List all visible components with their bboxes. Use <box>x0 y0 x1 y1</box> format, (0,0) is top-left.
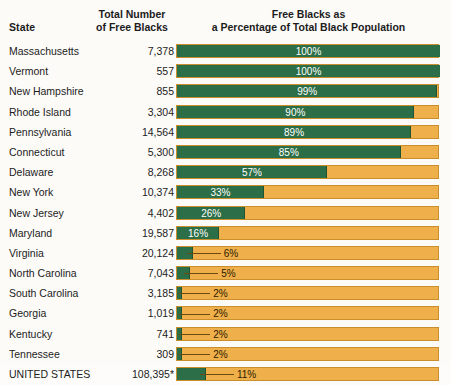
bar-track: 33% <box>176 185 439 199</box>
total-free-blacks-value: 741 <box>88 328 174 340</box>
state-name: Virginia <box>9 247 44 259</box>
state-name: Tennessee <box>9 348 60 360</box>
table-row: Virginia20,1246% <box>0 244 451 264</box>
leader-line <box>179 334 210 335</box>
state-name: North Carolina <box>9 267 77 279</box>
table-row: Vermont557100% <box>0 62 451 82</box>
column-header-pct-line2: a Percentage of Total Black Population <box>177 21 440 34</box>
bar-track: 11% <box>176 367 439 381</box>
table-row: Delaware8,26857% <box>0 163 451 183</box>
bar-fill-free <box>177 106 414 118</box>
total-free-blacks-value: 3,304 <box>88 106 174 118</box>
bar-fill-free <box>177 166 327 178</box>
table-row: New Hampshire85599% <box>0 82 451 102</box>
total-free-blacks-value: 10,374 <box>88 186 174 198</box>
bar-track: 85% <box>176 145 439 159</box>
bar-fill-free <box>177 186 264 198</box>
bar-track: 100% <box>176 64 439 78</box>
state-name: Rhode Island <box>9 106 71 118</box>
table-row: Georgia1,0192% <box>0 304 451 324</box>
state-name: South Carolina <box>9 287 78 299</box>
bar-track: 2% <box>176 347 439 361</box>
total-free-blacks-value: 3,185 <box>88 287 174 299</box>
table-row: New Jersey4,40226% <box>0 204 451 224</box>
table-row: UNITED STATES108,395*11% <box>0 365 451 385</box>
table-row: Tennessee3092% <box>0 345 451 365</box>
leader-line <box>200 374 234 375</box>
state-name: Maryland <box>9 227 52 239</box>
column-header-total-free-blacks: Total Number of Free Blacks <box>90 8 174 33</box>
total-free-blacks-value: 4,402 <box>88 207 174 219</box>
bar-track: 100% <box>176 44 439 58</box>
bar-track: 90% <box>176 105 439 119</box>
bar-track: 2% <box>176 306 439 320</box>
state-name: Pennsylvania <box>9 126 71 138</box>
total-free-blacks-value: 7,378 <box>88 45 174 57</box>
bar-fill-free <box>177 207 245 219</box>
leader-line <box>179 314 210 315</box>
state-name: New Jersey <box>9 207 64 219</box>
total-free-blacks-value: 557 <box>88 65 174 77</box>
bar-fill-free <box>177 85 437 97</box>
chart-rows: Massachusetts7,378100%Vermont557100%New … <box>0 42 451 385</box>
total-free-blacks-value: 19,587 <box>88 227 174 239</box>
leader-line <box>179 354 210 355</box>
leader-line <box>179 293 210 294</box>
bar-track: 99% <box>176 84 439 98</box>
table-row: South Carolina3,1852% <box>0 284 451 304</box>
column-header-total-line1: Total Number <box>90 8 174 21</box>
bar-value-label: 11% <box>237 368 256 382</box>
bar-track: 89% <box>176 125 439 139</box>
state-name: UNITED STATES <box>9 368 90 380</box>
leader-line <box>184 273 218 274</box>
bar-value-label: 2% <box>213 307 227 321</box>
column-header-pct-line1: Free Blacks as <box>177 8 440 21</box>
total-free-blacks-value: 7,043 <box>88 267 174 279</box>
column-header-percentage: Free Blacks as a Percentage of Total Bla… <box>177 8 440 33</box>
table-row: North Carolina7,0435% <box>0 264 451 284</box>
column-header-state: State <box>9 21 35 33</box>
bar-track: 16% <box>176 226 439 240</box>
column-header-total-line2: of Free Blacks <box>90 21 174 34</box>
bar-track: 2% <box>176 286 439 300</box>
bar-value-label: 2% <box>213 328 227 342</box>
table-row: Rhode Island3,30490% <box>0 103 451 123</box>
total-free-blacks-value: 309 <box>88 348 174 360</box>
chart-header: State Total Number of Free Blacks Free B… <box>0 0 451 42</box>
bar-value-label: 5% <box>221 267 235 281</box>
table-row: New York10,37433% <box>0 183 451 203</box>
state-name: Georgia <box>9 307 46 319</box>
total-free-blacks-value: 5,300 <box>88 146 174 158</box>
bar-track: 5% <box>176 266 439 280</box>
state-name: Kentucky <box>9 328 52 340</box>
bar-track: 26% <box>176 206 439 220</box>
table-row: Pennsylvania14,56489% <box>0 123 451 143</box>
bar-fill-free <box>177 227 219 239</box>
bar-fill-free <box>177 126 411 138</box>
bar-track: 6% <box>176 246 439 260</box>
table-row: Maryland19,58716% <box>0 224 451 244</box>
table-row: Massachusetts7,378100% <box>0 42 451 62</box>
state-name: Delaware <box>9 166 53 178</box>
state-name: Vermont <box>9 65 48 77</box>
total-free-blacks-value: 1,019 <box>88 307 174 319</box>
bar-fill-free <box>177 45 440 57</box>
bar-track: 57% <box>176 165 439 179</box>
total-free-blacks-value: 8,268 <box>88 166 174 178</box>
leader-line <box>187 253 221 254</box>
bar-track: 2% <box>176 327 439 341</box>
bar-value-label: 6% <box>224 247 238 261</box>
total-free-blacks-value: 108,395* <box>88 368 174 380</box>
total-free-blacks-value: 14,564 <box>88 126 174 138</box>
bar-value-label: 2% <box>213 287 227 301</box>
state-name: New York <box>9 186 53 198</box>
table-row: Kentucky7412% <box>0 325 451 345</box>
state-name: New Hampshire <box>9 85 84 97</box>
state-name: Massachusetts <box>9 45 79 57</box>
state-name: Connecticut <box>9 146 64 158</box>
total-free-blacks-value: 20,124 <box>88 247 174 259</box>
bar-fill-free <box>177 65 440 77</box>
table-row: Connecticut5,30085% <box>0 143 451 163</box>
bar-fill-free <box>177 146 401 158</box>
